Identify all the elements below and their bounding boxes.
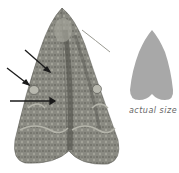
moth-image bbox=[0, 0, 130, 173]
actual-size-caption: actual size bbox=[128, 106, 178, 115]
moth-figure: actual size bbox=[0, 0, 179, 173]
actual-size-silhouette bbox=[129, 30, 175, 102]
